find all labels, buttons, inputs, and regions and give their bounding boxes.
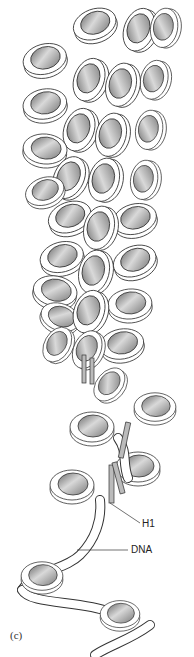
solenoid-fiber bbox=[20, 2, 185, 409]
h1-label: H1 bbox=[142, 519, 155, 529]
dna-label: DNA bbox=[131, 545, 152, 555]
open-chromatin bbox=[22, 393, 176, 590]
h1-leader-line bbox=[110, 503, 140, 523]
beads-on-string bbox=[21, 562, 150, 655]
chromatin-fiber-diagram bbox=[0, 0, 194, 657]
panel-label: (c) bbox=[10, 630, 22, 641]
